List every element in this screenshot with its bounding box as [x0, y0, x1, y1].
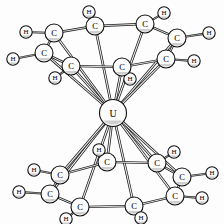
- carbon-atom: C: [157, 50, 175, 68]
- ring-bond: [62, 27, 88, 31]
- carbon-atom: C: [35, 44, 53, 62]
- carbon-hydrogen-bond: [18, 54, 36, 57]
- hydrogen-atom: H: [158, 7, 170, 19]
- carbon-atom: C: [173, 168, 191, 186]
- carbon-hydrogen-bond: [174, 60, 189, 61]
- hydrogen-atom: H: [7, 53, 19, 65]
- hydrogen-atom: H: [168, 146, 180, 158]
- carbon-hydrogen-bond: [190, 174, 207, 176]
- carbon-hydrogen-bond: [25, 192, 43, 193]
- carbon-atom: C: [41, 185, 59, 203]
- ring-bond: [141, 198, 167, 204]
- metal-ligand-bond: [117, 119, 171, 191]
- hydrogen-atom: H: [28, 164, 40, 176]
- carbon-hydrogen-bond: [32, 32, 47, 33]
- hydrogen-atom: H: [93, 144, 105, 156]
- metal-ligand-bond: [75, 71, 108, 107]
- ring-bond: [57, 197, 73, 204]
- molecular-diagram-canvas: HHHHHHHHCCCCCCCC U CCCCCCCCHHHHHHHH: [0, 0, 224, 224]
- carbon-atom: C: [86, 17, 104, 35]
- ring-bond: [115, 162, 150, 163]
- carbon-atom: C: [136, 15, 154, 33]
- ring-bond: [88, 206, 127, 207]
- hydrogen-atom: H: [206, 167, 218, 179]
- carbon-atom: C: [113, 58, 131, 76]
- ring-bond: [103, 24, 138, 25]
- carbon-atom: C: [148, 154, 166, 172]
- carbon-hydrogen-bond: [185, 34, 204, 37]
- ring-bond: [79, 66, 115, 67]
- carbon-atom: C: [62, 57, 80, 75]
- carbon-hydrogen-bond: [183, 197, 197, 198]
- carbon-atom: C: [51, 166, 69, 184]
- hydrogen-atom: H: [49, 72, 61, 84]
- hydrogen-atom: H: [188, 55, 200, 67]
- atom-group-back: HHHHHHHHCCCCCCCC: [7, 6, 215, 85]
- hydrogen-atom: H: [83, 6, 95, 18]
- hydrogen-atom: H: [135, 212, 147, 224]
- hydrogen-atom: H: [60, 213, 72, 224]
- carbon-atom: C: [166, 187, 184, 205]
- uranium-atom: U: [100, 100, 127, 127]
- carbon-atom: C: [168, 29, 186, 47]
- atom-group-metal: U: [100, 100, 127, 127]
- carbon-atom: C: [71, 198, 89, 216]
- atom-group-front: CCCCCCCCHHHHHHHH: [13, 144, 218, 224]
- molecule-svg: HHHHHHHHCCCCCCCC U CCCCCCCCHHHHHHHH: [0, 0, 224, 224]
- ring-bond: [152, 27, 170, 35]
- carbon-atom: C: [45, 24, 63, 42]
- hydrogen-atom: H: [13, 186, 25, 198]
- carbon-hydrogen-bond: [39, 171, 52, 174]
- hydrogen-atom: H: [196, 192, 208, 204]
- hydrogen-atom: H: [20, 26, 32, 38]
- hydrogen-atom: H: [203, 27, 215, 39]
